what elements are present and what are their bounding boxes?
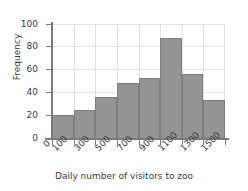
bar-1300 xyxy=(182,74,204,138)
y-tick-label-60: 60 xyxy=(12,64,38,74)
y-tick-label-0: 0 xyxy=(12,133,38,143)
y-tick-label-100: 100 xyxy=(12,19,38,29)
bar-900 xyxy=(139,78,161,138)
y-tick-label-20: 20 xyxy=(12,110,38,120)
bar-group xyxy=(52,24,225,138)
x-axis-title: Daily number of visitors to zoo xyxy=(0,171,248,181)
bar-1100 xyxy=(160,38,182,138)
x-axis-line xyxy=(45,138,229,140)
bar-500 xyxy=(95,97,117,138)
plot-area xyxy=(52,24,225,138)
y-axis-line xyxy=(51,22,53,140)
x-tick-mark xyxy=(225,140,226,145)
y-tick-label-40: 40 xyxy=(12,87,38,97)
bar-700 xyxy=(117,83,139,138)
y-tick-label-80: 80 xyxy=(12,41,38,51)
histogram-chart: Frequency 100 80 60 40 20 0 xyxy=(0,0,248,191)
